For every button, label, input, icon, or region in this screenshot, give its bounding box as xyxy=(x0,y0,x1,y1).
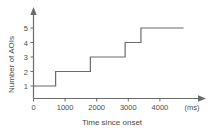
x-tick-label-2000: 2000 xyxy=(88,103,105,112)
step-chart-canvas xyxy=(0,0,215,136)
x-tick-label-3000: 3000 xyxy=(120,103,137,112)
y-tick-label-2: 2 xyxy=(18,67,28,76)
y-tick-label-1: 1 xyxy=(18,82,28,91)
x-axis-title: Time since onset xyxy=(82,118,142,127)
y-tick-label-4: 4 xyxy=(18,38,28,47)
chart-figure: 5 4 3 2 1 0 1000 2000 3000 4000 (ms) Tim… xyxy=(0,0,215,136)
step-series-line xyxy=(34,28,184,86)
x-axis-arrowhead xyxy=(198,95,206,101)
x-tick-label-1000: 1000 xyxy=(57,103,74,112)
y-tick-label-5: 5 xyxy=(18,24,28,33)
x-tick-label-0: 0 xyxy=(31,103,35,112)
y-tick-label-3: 3 xyxy=(18,53,28,62)
x-axis-unit-label: (ms) xyxy=(185,103,200,112)
x-tick-label-4000: 4000 xyxy=(152,103,169,112)
y-axis-arrowhead xyxy=(30,7,36,15)
y-axis-title: Number of AOIs xyxy=(7,36,16,93)
